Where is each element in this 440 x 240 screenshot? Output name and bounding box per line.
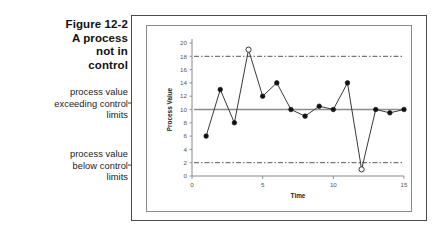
data-point	[317, 104, 322, 109]
x-tick-label: 0	[190, 181, 194, 188]
figure-caption: Figure 12-2 A process not in control	[4, 18, 128, 72]
data-point	[373, 107, 378, 112]
annotation-upper-line-2: exceeding control	[0, 99, 128, 111]
data-point-out-of-control	[359, 167, 364, 172]
figure-title-line-3: not in	[4, 45, 128, 59]
y-tick-label: 8	[184, 119, 188, 126]
y-tick-label: 14	[180, 79, 187, 86]
x-tick-label: 5	[261, 181, 265, 188]
data-point	[218, 87, 223, 92]
y-axis-title: Process Value	[166, 87, 173, 131]
annotation-lower-line-3: limits	[0, 172, 128, 184]
chart-axes	[192, 39, 404, 176]
data-point-out-of-control	[246, 47, 251, 52]
annotation-below-control-limits: process value below control limits	[0, 149, 128, 184]
data-point	[402, 107, 407, 112]
figure-title-line-4: control	[4, 59, 128, 73]
y-tick-label: 20	[180, 39, 187, 46]
data-point	[331, 107, 336, 112]
page-title: Figure 12-2 A process not in control	[4, 18, 128, 72]
data-point	[275, 81, 280, 86]
chart-ticks: 02468101214161820051015	[180, 39, 408, 188]
figure-title-line-2: A process	[4, 32, 128, 46]
data-point	[289, 107, 294, 112]
data-point	[388, 111, 393, 116]
annotation-upper-line-1: process value	[0, 87, 128, 99]
y-tick-label: 2	[184, 159, 188, 166]
annotation-exceeding-control-limits: process value exceeding control limits	[0, 87, 128, 122]
x-axis-title: Time	[291, 192, 306, 199]
data-point	[204, 134, 209, 139]
annotation-upper-line-3: limits	[0, 110, 128, 122]
data-point	[345, 81, 350, 86]
annotation-lower-line-1: process value	[0, 149, 128, 161]
y-tick-label: 0	[184, 172, 188, 179]
y-tick-label: 18	[180, 53, 187, 60]
annotation-lower-line-2: below control	[0, 161, 128, 173]
data-point	[260, 94, 265, 99]
y-tick-label: 6	[184, 132, 188, 139]
data-point	[303, 114, 308, 119]
figure-title-line-1: Figure 12-2	[4, 18, 128, 32]
y-tick-label: 10	[180, 106, 187, 113]
y-tick-label: 16	[180, 66, 187, 73]
control-chart-svg: 02468101214161820051015 TimeProcess Valu…	[146, 25, 412, 212]
control-chart: 02468101214161820051015 TimeProcess Valu…	[146, 25, 412, 212]
y-tick-label: 12	[180, 92, 187, 99]
x-tick-label: 10	[330, 181, 337, 188]
x-tick-label: 15	[401, 181, 408, 188]
chart-axis-titles: TimeProcess Value	[166, 87, 306, 199]
figure-root: Figure 12-2 A process not in control pro…	[0, 0, 440, 240]
y-tick-label: 4	[184, 146, 188, 153]
data-point	[232, 121, 237, 126]
